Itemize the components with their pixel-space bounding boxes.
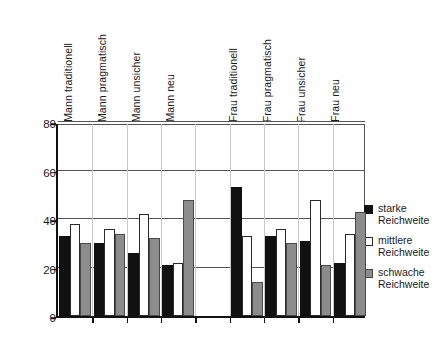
- bar-frau-pragmatisch-starke: [265, 236, 276, 316]
- legend-item-mittlere: mittlere Reichweite: [364, 235, 448, 258]
- legend-label-schwache-line1: schwache: [378, 267, 448, 279]
- bar-frau-pragmatisch-schwache: [286, 243, 297, 316]
- x-tick-8: [333, 318, 334, 323]
- legend-item-starke: starke Reichweite: [364, 203, 448, 226]
- legend-label-starke-line2: Reichweite: [378, 215, 448, 227]
- category-label-4: Frau traditionell: [228, 48, 239, 122]
- bar-frau-traditionell-mittlere: [242, 236, 253, 316]
- category-label-6: Frau unsicher: [296, 57, 307, 123]
- legend-label-mittlere-line1: mittlere: [378, 235, 448, 247]
- legend-label-starke-line1: starke: [378, 203, 448, 215]
- bar-frau-traditionell-starke: [231, 187, 242, 316]
- legend-item-schwache: schwache Reichweite: [364, 267, 448, 290]
- category-label-7: Frau neu: [330, 79, 341, 122]
- bar-mann-unsicher-starke: [128, 253, 139, 316]
- bar-frau-traditionell-schwache: [252, 282, 263, 316]
- bar-frau-unsicher-schwache: [321, 265, 332, 316]
- bar-frau-neu-starke: [334, 263, 345, 316]
- x-tick-4: [195, 318, 196, 323]
- x-tick-1: [92, 318, 93, 323]
- legend-label-mittlere-line2: Reichweite: [378, 247, 448, 259]
- bar-mann-pragmatisch-starke: [94, 243, 105, 316]
- bar-mann-traditionell-mittlere: [70, 224, 81, 316]
- x-tick-3: [161, 318, 162, 323]
- bar-frau-neu-schwache: [355, 212, 366, 316]
- x-tick-6: [264, 318, 265, 323]
- bar-mann-unsicher-schwache: [149, 238, 160, 316]
- category-label-group: Mann traditionell Mann pragmatisch Mann …: [0, 0, 370, 122]
- bar-frau-unsicher-starke: [300, 241, 311, 316]
- bar-chart: Mann traditionell Mann pragmatisch Mann …: [0, 0, 448, 342]
- category-label-0: Mann traditionell: [63, 43, 74, 122]
- bar-mann-pragmatisch-schwache: [115, 234, 126, 316]
- bar-mann-pragmatisch-mittlere: [104, 229, 115, 316]
- bar-mann-traditionell-schwache: [80, 243, 91, 316]
- bar-mann-unsicher-mittlere: [139, 214, 150, 316]
- bar-mann-neu-starke: [162, 265, 173, 316]
- category-label-2: Mann unsicher: [131, 52, 142, 122]
- y-axis: 80 60 40 20 0: [8, 124, 56, 322]
- x-tick-5: [230, 318, 231, 323]
- chart-legend: starke Reichweite mittlere Reichweite sc…: [364, 203, 448, 299]
- bar-mann-neu-mittlere: [173, 263, 184, 316]
- bar-frau-pragmatisch-mittlere: [276, 229, 287, 316]
- category-label-3: Mann neu: [165, 74, 176, 122]
- x-tick-2: [127, 318, 128, 323]
- x-tick-7: [298, 318, 299, 323]
- legend-label-schwache-line2: Reichweite: [378, 279, 448, 291]
- plot-area: [56, 124, 365, 318]
- category-label-1: Mann pragmatisch: [97, 34, 108, 122]
- gridline-y-80: [58, 121, 365, 122]
- bar-mann-traditionell-starke: [59, 236, 70, 316]
- bar-mann-neu-schwache: [183, 200, 194, 316]
- bar-series-group: [58, 124, 365, 316]
- bar-frau-neu-mittlere: [345, 234, 356, 316]
- bar-frau-unsicher-mittlere: [310, 200, 321, 316]
- category-label-5: Frau pragmatisch: [262, 39, 273, 122]
